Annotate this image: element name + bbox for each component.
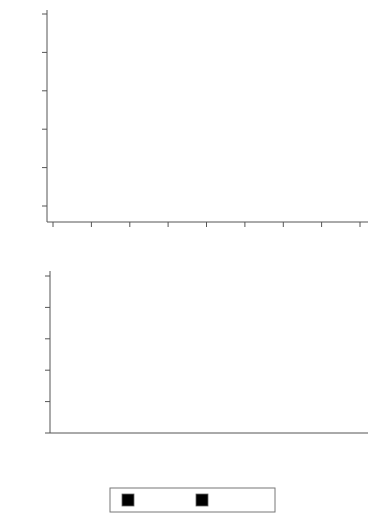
- top-chart-panel: [0, 0, 383, 263]
- bottom-chart-legend: [110, 488, 275, 512]
- top-chart-xticks: [53, 222, 360, 227]
- top-chart-yticks: [42, 14, 47, 206]
- bottom-chart-panel: [0, 263, 383, 526]
- bottom-chart-yticks: [45, 276, 50, 433]
- legend-swatch-trump: [196, 494, 208, 506]
- figure-container: [0, 0, 383, 526]
- legend-swatch-clinton: [122, 494, 134, 506]
